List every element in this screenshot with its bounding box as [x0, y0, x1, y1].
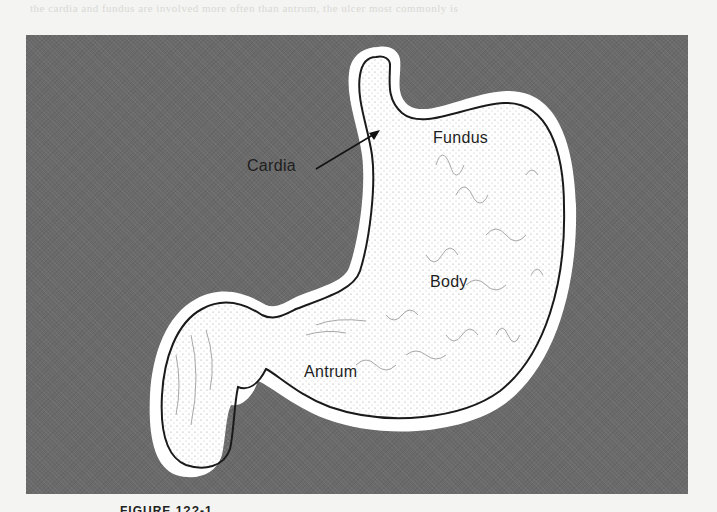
- label-cardia: Cardia: [247, 157, 296, 175]
- label-fundus: Fundus: [433, 129, 488, 147]
- figure-caption: FIGURE 1??-1: [120, 503, 213, 512]
- reverse-page-bleed-text: the cardia and fundus are involved more …: [30, 2, 690, 30]
- label-antrum: Antrum: [304, 363, 357, 381]
- figure-panel: Fundus Cardia Body Antrum: [26, 35, 688, 494]
- stomach-illustration: [26, 35, 688, 494]
- label-body: Body: [430, 273, 468, 291]
